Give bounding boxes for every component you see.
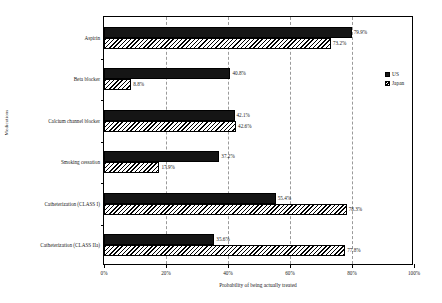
y-axis-category-label: Catheterization (CLASS IIa) [4,241,100,249]
y-axis-tick [101,142,104,143]
x-axis-tick-label: 80% [347,270,357,276]
y-axis-category-label: Aspirin [4,34,100,42]
bar-value-label: 42.6% [238,121,251,132]
bar-us [104,110,235,121]
y-axis-category-label: Smoking cessation [4,158,100,166]
bar-value-label: 77.8% [347,245,360,256]
legend-label-japan: Japan [392,79,404,88]
y-axis-tick [101,183,104,184]
bar-value-label: 37.2% [221,151,234,162]
bar-japan [104,121,236,132]
legend-label-us: US [392,70,399,79]
y-axis-category-label: Beta blocker [4,75,100,83]
bar-value-label: 55.4% [278,193,291,204]
x-axis-tick-label: 40% [223,270,233,276]
bar-japan [104,162,159,173]
chart-figure: Medications 0%20%40%60%80%100% Aspirin79… [0,0,442,303]
bar-us [104,234,214,245]
bar-value-label: 35.6% [216,234,229,245]
legend-swatch-japan-icon [385,81,390,86]
bar-value-label: 73.2% [333,38,346,49]
y-axis-tick [101,59,104,60]
chart-legend: US Japan [385,70,404,88]
x-axis-tick [414,264,415,268]
bar-value-label: 42.1% [237,110,250,121]
x-axis-tick-label: 20% [161,270,171,276]
y-axis-category-label: Calcium channel blocker [4,117,100,125]
bar-japan [104,79,131,90]
bar-us [104,151,219,162]
legend-item-us: US [385,70,404,79]
bar-group: Smoking cessation37.2%17.9% [104,142,412,184]
bar-group: Catheterization (CLASS I)55.4%78.3% [104,183,412,225]
legend-swatch-us-icon [385,72,390,77]
bar-value-label: 8.8% [133,79,144,90]
x-axis-tick-label: 0% [101,270,108,276]
bar-value-label: 79.9% [354,27,367,38]
bar-japan [104,204,347,215]
bar-group: Catheterization (CLASS IIa)35.6%77.8% [104,225,412,267]
bar-japan [104,245,345,256]
bar-us [104,193,276,204]
bar-us [104,68,230,79]
bar-group: Beta blocker40.8%8.8% [104,59,412,101]
bar-us [104,27,352,38]
x-axis-tick-label: 60% [285,270,295,276]
y-axis-tick [101,100,104,101]
bar-group: Calcium channel blocker42.1%42.6% [104,100,412,142]
bar-value-label: 17.9% [161,162,174,173]
legend-item-japan: Japan [385,79,404,88]
x-axis-tick-label: 100% [408,270,420,276]
bar-value-label: 78.3% [349,204,362,215]
y-axis-category-label: Catheterization (CLASS I) [4,200,100,208]
plot-area: 0%20%40%60%80%100% Aspirin79.9%73.2%Beta… [103,16,413,265]
bar-group: Aspirin79.9%73.2% [104,17,412,59]
bar-value-label: 40.8% [232,68,245,79]
y-axis-tick [101,225,104,226]
bar-japan [104,38,331,49]
x-axis-title: Probability of being actually treated [103,282,413,288]
